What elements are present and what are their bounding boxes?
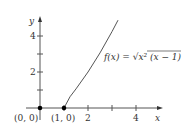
- point-origin: [38, 106, 43, 111]
- point-origin-label: (0, 0): [14, 113, 38, 123]
- y-axis-arrow-icon: [38, 16, 42, 22]
- function-lhs: f(x) =: [103, 52, 133, 62]
- graph: y 4 2 2 4 x (0, 0) (1, 0) f(x) = √x² (x …: [0, 0, 195, 127]
- function-label: f(x) = √x² (x − 1): [103, 52, 182, 62]
- point-one-zero: [62, 106, 67, 111]
- radicand: x² (x − 1): [138, 52, 181, 62]
- x-axis-label: x: [155, 113, 160, 123]
- point-one-label: (1, 0): [51, 113, 75, 123]
- x-axis-arrow-icon: [157, 106, 163, 110]
- x-tick-label-2: 2: [85, 113, 91, 123]
- x-tick-label-4: 4: [133, 113, 139, 123]
- y-tick-label-4: 4: [30, 31, 36, 41]
- y-axis-label: y: [28, 16, 35, 26]
- function-curve: [64, 20, 118, 108]
- y-tick-label-2: 2: [30, 67, 36, 77]
